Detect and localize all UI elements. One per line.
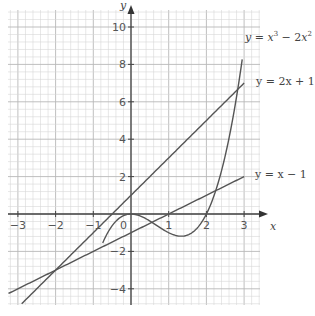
x-tick-label: −3 — [10, 219, 26, 232]
grid — [8, 10, 260, 305]
line-x-minus-1-label: y = x − 1 — [254, 168, 307, 181]
y-axis-arrow-icon — [128, 5, 135, 14]
x-tick-label: 2 — [203, 219, 210, 232]
y-axis-label: y — [119, 0, 127, 12]
tick-labels: −3−2−1123−4−22468100 — [10, 21, 248, 296]
function-graph: x y −3−2−1123−4−22468100 y = x3 − 2x2 y … — [0, 0, 315, 316]
x-axis-label: x — [270, 220, 277, 233]
x-tick-label: 3 — [241, 219, 248, 232]
curve-labels: y = x3 − 2x2 y = 2x + 1 y = x − 1 — [244, 30, 315, 181]
line-2x-plus-1-label: y = 2x + 1 — [255, 75, 315, 88]
y-tick-label: 2 — [119, 171, 126, 184]
y-tick-label: 6 — [119, 96, 126, 109]
y-tick-label: −2 — [110, 245, 126, 258]
curve-x-1 — [8, 177, 244, 294]
y-tick-label: −4 — [110, 283, 126, 296]
x-tick-label: −1 — [85, 219, 101, 232]
x-axis-arrow-icon — [259, 211, 268, 218]
y-tick-label: 8 — [119, 58, 126, 71]
x-tick-label: 1 — [165, 219, 172, 232]
cubic-label: y = x3 − 2x2 — [244, 30, 312, 44]
origin-label: 0 — [120, 219, 127, 232]
y-tick-label: 10 — [112, 21, 126, 34]
x-tick-label: −2 — [47, 219, 63, 232]
y-tick-label: 4 — [119, 133, 126, 146]
curves — [8, 59, 244, 303]
